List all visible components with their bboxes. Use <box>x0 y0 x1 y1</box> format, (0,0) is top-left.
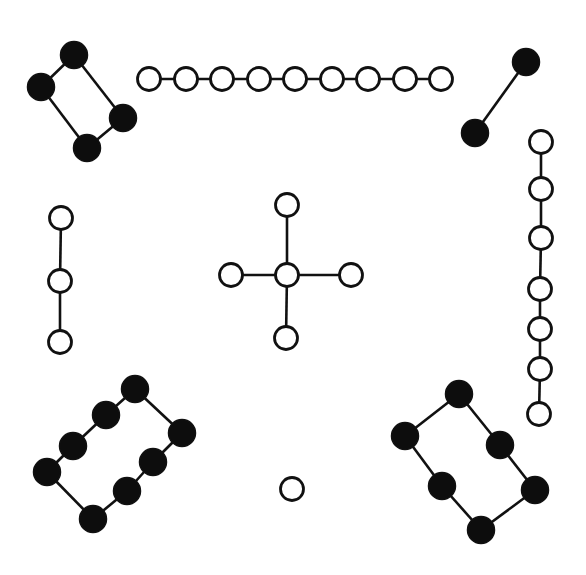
bottom-left-cycle-node-7-filled <box>169 420 196 447</box>
center-star-node-3-open <box>220 264 243 287</box>
top-path-node-3-open <box>248 68 271 91</box>
component-top-path-nodes <box>138 68 453 91</box>
bottom-left-cycle-node-1-filled <box>93 402 120 429</box>
bottom-left-cycle-node-5-filled <box>114 478 141 505</box>
bottom-left-cycle-node-3-filled <box>34 459 61 486</box>
bottom-right-cycle-node-4-filled <box>522 477 549 504</box>
center-star-node-2-open <box>275 327 298 350</box>
component-bottom-right-cycle <box>405 394 535 530</box>
right-path-node-2-open <box>530 227 553 250</box>
top-path-node-6-open <box>357 68 380 91</box>
component-top-left-cycle <box>41 55 123 148</box>
bottom-right-cycle-node-5-filled <box>487 432 514 459</box>
right-path-node-5-open <box>529 358 552 381</box>
right-path-node-1-open <box>530 178 553 201</box>
isolated-node-node-0-open <box>281 478 304 501</box>
top-path-node-0-open <box>138 68 161 91</box>
component-bottom-left-cycle-nodes <box>34 376 196 533</box>
component-center-star-nodes <box>220 194 363 350</box>
top-path-node-2-open <box>211 68 234 91</box>
component-isolated-node-nodes <box>281 478 304 501</box>
left-path-node-1-open <box>49 270 72 293</box>
top-left-cycle-node-0-filled <box>61 42 88 69</box>
top-right-edge-node-0-filled <box>513 49 540 76</box>
top-left-cycle-node-3-filled <box>110 105 137 132</box>
nodes-layer <box>28 42 553 544</box>
center-star-node-1-open <box>276 194 299 217</box>
bottom-right-cycle-node-3-filled <box>468 517 495 544</box>
center-star-node-0-open <box>276 264 299 287</box>
right-path-node-4-open <box>529 318 552 341</box>
graph-diagram <box>0 0 586 575</box>
bottom-left-cycle-node-4-filled <box>80 506 107 533</box>
bottom-left-cycle-node-2-filled <box>60 433 87 460</box>
bottom-left-cycle-node-6-filled <box>140 449 167 476</box>
bottom-right-cycle-node-1-filled <box>392 423 419 450</box>
top-path-node-7-open <box>394 68 417 91</box>
top-path-node-4-open <box>284 68 307 91</box>
left-path-node-2-open <box>49 331 72 354</box>
component-left-path-nodes <box>49 207 73 354</box>
bottom-right-cycle-node-2-filled <box>429 473 456 500</box>
bottom-right-cycle-node-0-filled <box>446 381 473 408</box>
top-left-cycle-node-2-filled <box>74 135 101 162</box>
center-star-node-4-open <box>340 264 363 287</box>
right-path-node-0-open <box>530 131 553 154</box>
right-path-node-6-open <box>528 403 551 426</box>
right-path-node-3-open <box>529 278 552 301</box>
top-path-node-5-open <box>321 68 344 91</box>
top-left-cycle-node-1-filled <box>28 74 55 101</box>
top-path-node-8-open <box>430 68 453 91</box>
top-path-node-1-open <box>175 68 198 91</box>
left-path-node-0-open <box>50 207 73 230</box>
bottom-left-cycle-node-0-filled <box>122 376 149 403</box>
top-right-edge-node-1-filled <box>462 120 489 147</box>
component-top-left-cycle-nodes <box>28 42 137 162</box>
